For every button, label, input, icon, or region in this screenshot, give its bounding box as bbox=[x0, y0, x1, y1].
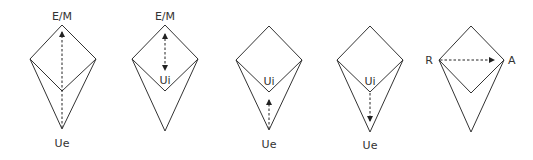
vertex-label: Ui bbox=[364, 75, 375, 88]
diagram-2: E/MUi bbox=[132, 10, 198, 131]
diagram-1: E/MUe bbox=[30, 10, 96, 150]
kite-outline bbox=[439, 60, 504, 132]
vertex-label: Ui bbox=[159, 74, 170, 87]
vertex-label: Ui bbox=[263, 75, 274, 88]
vertex-label: Ue bbox=[262, 138, 277, 151]
kite-diagrams-canvas: E/MUeE/MUiUiUeUiUeRA bbox=[0, 0, 533, 160]
kite-outline bbox=[337, 60, 403, 132]
vertex-label: E/M bbox=[52, 10, 72, 23]
diagram-4: UiUe bbox=[337, 26, 403, 152]
vertex-label: E/M bbox=[155, 10, 175, 23]
vertex-label: A bbox=[508, 54, 516, 67]
vertex-label: R bbox=[425, 54, 433, 67]
vertex-label: Ue bbox=[363, 139, 378, 152]
kite-outline bbox=[132, 59, 198, 131]
diagram-3: UiUe bbox=[236, 26, 302, 151]
vertex-label: Ue bbox=[55, 137, 70, 150]
diagram-5: RA bbox=[425, 26, 516, 132]
